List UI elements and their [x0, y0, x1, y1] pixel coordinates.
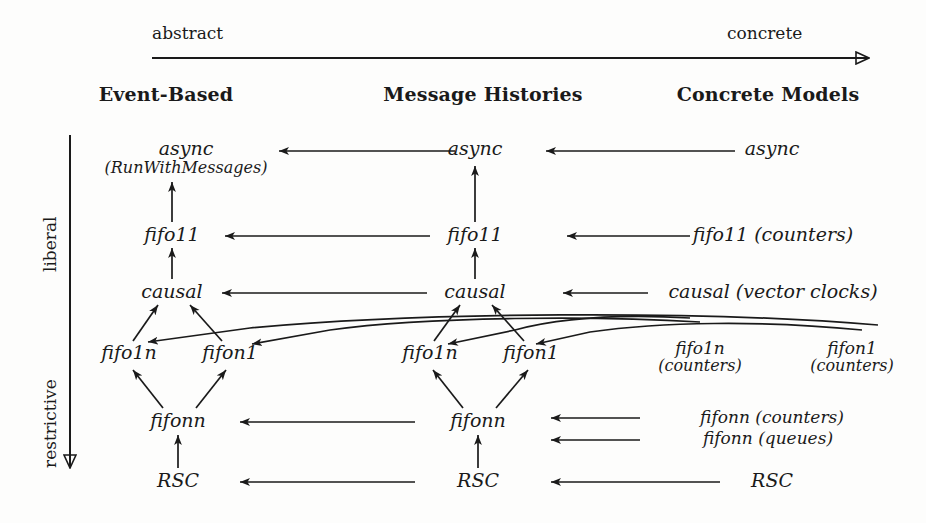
axis-label-abstract: abstract: [152, 24, 223, 42]
node-c3-fifo1n[interactable]: fifo1n (counters): [658, 339, 741, 375]
node-c3-fifon1[interactable]: fifon1 (counters): [810, 339, 893, 375]
node-c1-fifon1[interactable]: fifon1: [202, 342, 257, 363]
arrow-c1-fifo1n-to-causal: [133, 305, 158, 341]
node-c3-fifonn-counters[interactable]: fifonn (counters): [700, 408, 844, 426]
node-c3-rsc[interactable]: RSC: [751, 470, 793, 491]
arrow-c2-fifonn-to-fifo1n: [433, 370, 463, 408]
node-c3-fifon1-name: fifon1: [827, 338, 877, 358]
node-c2-async[interactable]: async: [448, 138, 503, 159]
axis-label-liberal: liberal: [40, 216, 60, 272]
node-c2-fifo1n[interactable]: fifo1n: [402, 342, 457, 363]
axis-label-restrictive: restrictive: [40, 379, 60, 468]
arrow-c2-fifo1n-to-causal: [434, 305, 460, 341]
node-c3-async[interactable]: async: [745, 138, 800, 159]
node-c1-fifonn[interactable]: fifonn: [150, 410, 206, 431]
arrow-c2-fifonn-to-fifon1: [496, 370, 528, 408]
node-c1-fifo1n[interactable]: fifo1n: [101, 342, 156, 363]
node-c2-rsc[interactable]: RSC: [457, 470, 499, 491]
node-c1-fifo11[interactable]: fifo11: [144, 224, 199, 245]
axis-label-concrete: concrete: [727, 24, 802, 42]
node-c1-async-subtitle: (RunWithMessages): [105, 159, 268, 176]
node-c1-async-name: async: [159, 137, 214, 159]
node-c3-causal[interactable]: causal (vector clocks): [668, 281, 877, 302]
node-c3-fifo1n-subtitle: (counters): [658, 357, 741, 374]
node-c1-async[interactable]: async (RunWithMessages): [105, 138, 268, 176]
node-c3-fifon1-subtitle: (counters): [810, 357, 893, 374]
node-c3-fifo1n-name: fifo1n: [675, 338, 725, 358]
node-c2-fifo11[interactable]: fifo11: [447, 224, 502, 245]
column-header-concrete-models: Concrete Models: [677, 84, 860, 105]
arrow-c2-fifon1-to-causal: [492, 305, 524, 341]
node-c1-rsc[interactable]: RSC: [157, 470, 199, 491]
node-c1-causal[interactable]: causal: [141, 281, 202, 302]
arrow-c1-fifonn-to-fifon1: [196, 370, 226, 408]
column-header-event-based: Event-Based: [99, 84, 234, 105]
node-c2-fifon1[interactable]: fifon1: [503, 342, 558, 363]
diagram-canvas: abstract concrete liberal restrictive Ev…: [0, 0, 926, 523]
node-c3-fifo11[interactable]: fifo11 (counters): [693, 224, 853, 245]
arrow-c1-fifonn-to-fifo1n: [133, 370, 163, 408]
node-c2-fifonn[interactable]: fifonn: [450, 410, 506, 431]
node-c2-causal[interactable]: causal: [444, 281, 505, 302]
node-c3-fifonn-queues[interactable]: fifonn (queues): [703, 429, 833, 447]
column-header-message-histories: Message Histories: [383, 84, 583, 105]
